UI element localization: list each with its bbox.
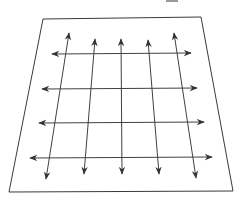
cropped-text-fragment xyxy=(166,0,178,2)
perspective-plane-diagram xyxy=(0,0,238,199)
